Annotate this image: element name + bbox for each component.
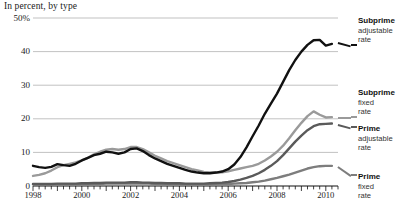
- x-axis-tick-label: 2004: [171, 190, 188, 200]
- legend-entry-subtitle: rate: [358, 35, 407, 44]
- legend-leader-line: [338, 166, 352, 176]
- x-axis-tick-label: 2000: [73, 190, 90, 200]
- series-line: [33, 40, 332, 173]
- legend-entry-subtitle: rate: [358, 191, 407, 200]
- chart-legend: SubprimeadjustablerateSubprimefixedrateP…: [340, 0, 407, 221]
- y-axis-tick-label: 40: [21, 47, 30, 56]
- legend-entry-title: Prime: [358, 124, 407, 134]
- y-axis-labels: 50%403020100: [0, 0, 30, 221]
- data-series: [33, 40, 332, 184]
- legend-entry[interactable]: Primeadjustablerate: [358, 124, 407, 152]
- legend-color-swatch: [351, 126, 357, 128]
- legend-leader-line: [338, 117, 351, 119]
- legend-entry-subtitle: adjustable: [358, 134, 407, 143]
- y-axis-tick-label: 30: [21, 81, 30, 90]
- y-axis-tick-label: 50%: [14, 14, 31, 23]
- legend-entry-title: Subprime: [358, 88, 407, 98]
- legend-color-swatch: [351, 44, 357, 46]
- legend-entry-subtitle: rate: [358, 107, 407, 116]
- y-axis-tick-label: 20: [21, 114, 30, 123]
- legend-entry-title: Subprime: [358, 16, 407, 26]
- plot-area: [33, 18, 338, 186]
- series-line: [33, 111, 332, 176]
- legend-leader-line: [338, 124, 351, 129]
- plot-svg: [33, 18, 338, 186]
- legend-leader-line: [338, 42, 351, 47]
- x-axis-tick-label: 2006: [220, 190, 237, 200]
- x-axis-tick-label: 1998: [24, 190, 41, 200]
- legend-entry[interactable]: Primefixedrate: [358, 172, 407, 200]
- legend-entry[interactable]: Subprimeadjustablerate: [358, 16, 407, 44]
- chart-figure: In percent, by type 50%403020100 1998200…: [0, 0, 407, 221]
- legend-entry-subtitle: adjustable: [358, 26, 407, 35]
- x-axis-tick-label: 2010: [317, 190, 334, 200]
- x-axis-labels: 1998200020022004200620082010: [33, 190, 343, 204]
- legend-entry[interactable]: Subprimefixedrate: [358, 88, 407, 116]
- legend-color-swatch: [351, 116, 357, 118]
- legend-entry-subtitle: fixed: [358, 182, 407, 191]
- legend-entry-subtitle: fixed: [358, 98, 407, 107]
- legend-entry-title: Prime: [358, 172, 407, 182]
- legend-entry-subtitle: rate: [358, 143, 407, 152]
- legend-color-swatch: [351, 174, 357, 176]
- y-axis-tick-label: 10: [21, 148, 30, 157]
- x-axis-tick-label: 2002: [122, 190, 139, 200]
- x-axis-tick-label: 2008: [268, 190, 285, 200]
